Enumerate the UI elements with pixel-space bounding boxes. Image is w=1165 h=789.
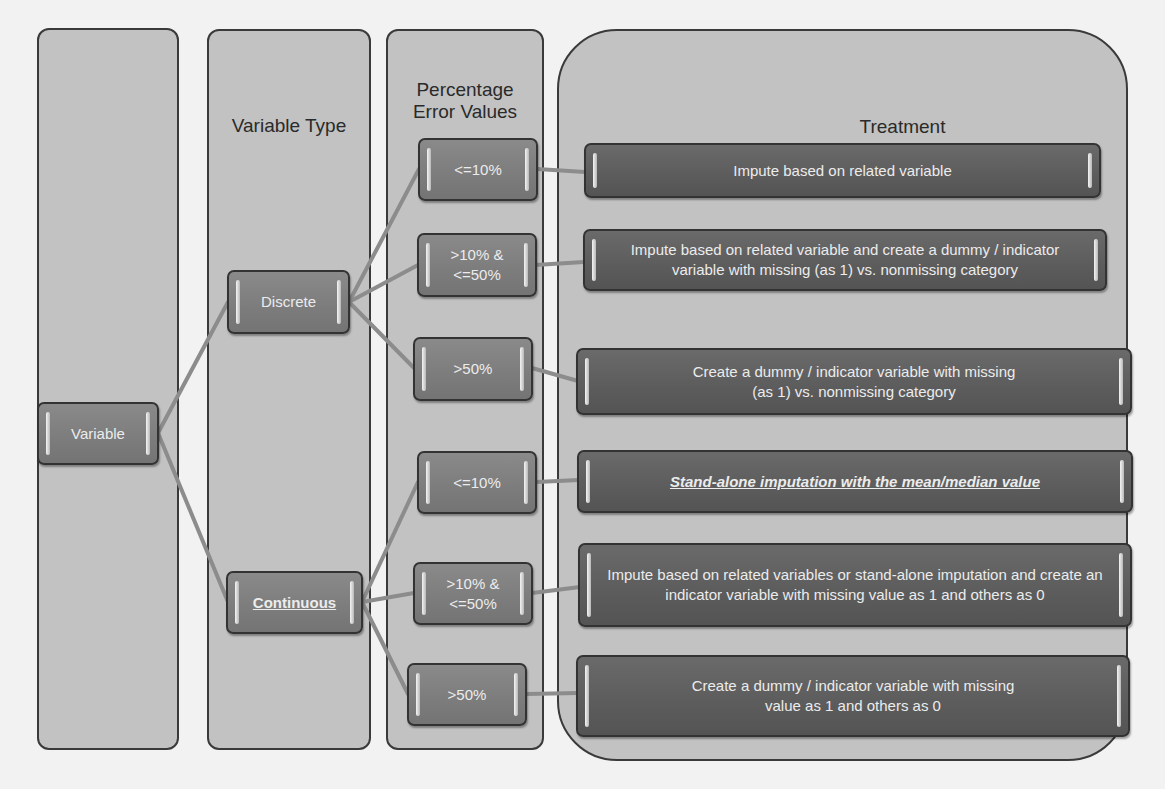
treatment-continuous-le10[interactable]: Stand-alone imputation with the mean/med…: [577, 450, 1133, 513]
discrete-range-10-50[interactable]: >10% & <=50%: [417, 233, 537, 297]
continuous-range-le10[interactable]: <=10%: [417, 451, 537, 514]
range-label: <=10%: [454, 160, 502, 180]
range-label: >50%: [454, 359, 493, 379]
continuous-range-gt50[interactable]: >50%: [407, 663, 527, 726]
treatment-continuous-gt50[interactable]: Create a dummy / indicator variable with…: [576, 655, 1130, 737]
range-label-line2: <=50%: [449, 594, 497, 614]
connector-continuous-10-50: [362, 593, 414, 602]
treatment-text: Impute based on related variable and cre…: [611, 240, 1079, 280]
variable-node[interactable]: Variable: [37, 402, 159, 465]
continuous-node-label: Continuous: [253, 593, 336, 613]
treatment-text: Create a dummy / indicator variable with…: [688, 362, 1020, 402]
range-label-line1: >10% &: [447, 574, 500, 594]
treatment-discrete-gt50[interactable]: Create a dummy / indicator variable with…: [576, 348, 1132, 415]
variable-node-label: Variable: [71, 424, 125, 444]
discrete-range-le10[interactable]: <=10%: [418, 138, 538, 201]
range-label: >50%: [448, 685, 487, 705]
discrete-node-label: Discrete: [261, 292, 316, 312]
treatment-text: Impute based on related variable: [733, 161, 951, 181]
range-label-line2: <=50%: [453, 265, 501, 285]
treatment-continuous-10-50[interactable]: Impute based on related variables or sta…: [578, 543, 1132, 627]
treatment-discrete-10-50[interactable]: Impute based on related variable and cre…: [583, 229, 1107, 291]
continuous-range-10-50[interactable]: >10% & <=50%: [413, 562, 533, 625]
continuous-node[interactable]: Continuous: [226, 571, 363, 634]
treatment-text: Create a dummy / indicator variable with…: [678, 676, 1028, 716]
connector-variable-continuous: [158, 433, 228, 602]
range-label: <=10%: [453, 473, 501, 493]
treatment-text: Impute based on related variables or sta…: [600, 565, 1110, 605]
connector-variable-discrete: [158, 302, 228, 433]
connector-discrete-gt50: [349, 302, 414, 368]
connector-continuous-gt50: [362, 602, 408, 694]
treatment-text: Stand-alone imputation with the mean/med…: [670, 469, 1040, 494]
discrete-node[interactable]: Discrete: [227, 270, 350, 334]
connector-continuous-le10: [362, 482, 418, 602]
discrete-range-gt50[interactable]: >50%: [413, 337, 533, 401]
range-label-line1: >10% &: [451, 245, 504, 265]
treatment-discrete-le10[interactable]: Impute based on related variable: [584, 143, 1101, 198]
